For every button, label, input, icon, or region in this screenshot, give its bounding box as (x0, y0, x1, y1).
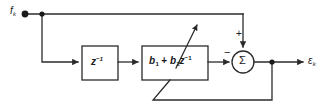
summer-minus-sign: − (224, 47, 230, 58)
adaptive-filter-label: b1 + b2z−1 (149, 56, 192, 66)
input-tap-dot (39, 11, 44, 16)
output-tap-dot (269, 59, 274, 64)
summation-symbol: Σ (239, 55, 246, 66)
input-terminal-dot (22, 11, 29, 18)
delay-block-label: z−1 (91, 57, 103, 67)
output-signal-label: εk (308, 56, 316, 66)
summer-plus-sign: + (236, 29, 242, 39)
signal-flow-diagram: fk εk z−1 b1 + b2z−1 Σ + − (0, 0, 326, 110)
input-signal-label: fk (10, 6, 16, 16)
input-branch-to-delay (42, 14, 78, 62)
